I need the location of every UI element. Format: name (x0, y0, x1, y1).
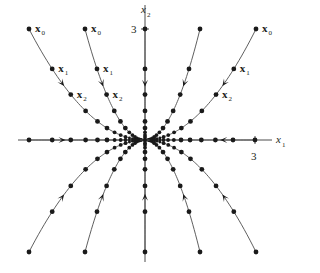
trajectory-upper-right-inner (145, 27, 202, 141)
iterate-label-x1: x (58, 62, 64, 74)
iterate-point (113, 146, 117, 150)
iterate-point (143, 67, 148, 72)
iterate-point (83, 109, 88, 114)
iterate-point (199, 167, 204, 172)
iterate-point (231, 67, 236, 72)
iterate-point (27, 250, 32, 255)
iterate-point (95, 209, 100, 214)
iterate-point (68, 92, 73, 97)
direction-arrow-icon (58, 79, 65, 86)
x2-axis-label: x (140, 3, 146, 15)
x2-tick-label: 3 (131, 23, 137, 35)
trajectory-lower-right-outer (145, 139, 258, 254)
iterate-point (105, 150, 110, 155)
iterate-point (113, 138, 117, 142)
iterate-point (198, 27, 203, 32)
iterate-label-x1: x (240, 62, 246, 74)
iterate-label-x0-subscript: 0 (269, 29, 273, 37)
trajectory-axis-negative-x2 (142, 139, 148, 254)
trajectory-curve (85, 140, 145, 252)
iterate-point (127, 146, 131, 150)
x1-axis-label: x (275, 133, 281, 145)
iterate-point (131, 139, 134, 142)
iterate-point (105, 126, 110, 131)
iterate-point (188, 119, 193, 124)
iterate-label-x0-subscript: 0 (42, 29, 46, 37)
iterate-point (123, 126, 128, 131)
direction-arrow-icon (58, 195, 65, 202)
iterate-point (166, 138, 170, 142)
iterate-point (171, 167, 176, 172)
iterate-point (161, 126, 166, 131)
iterate-point (128, 139, 131, 142)
iterate-point (143, 92, 148, 97)
iterate-point (187, 209, 192, 214)
iterate-point (143, 126, 148, 131)
iterate-point (119, 138, 123, 142)
iterate-point (95, 156, 100, 161)
iterate-point (95, 138, 100, 143)
iterate-point (188, 138, 193, 143)
iterate-point (166, 143, 170, 147)
iterate-point (158, 146, 162, 150)
iterate-point (165, 156, 170, 161)
iterate-label-x2-subscript: 2 (83, 95, 87, 103)
trajectory-lower-left-outer (27, 139, 145, 254)
iterate-point (143, 167, 148, 172)
trajectory-lower-right-inner (145, 139, 202, 254)
x1-axis-subscript: 1 (282, 141, 286, 149)
iterate-point (214, 92, 219, 97)
iterate-point (113, 130, 117, 134)
iterate-point (105, 138, 110, 143)
iterate-point (137, 139, 140, 142)
iterate-point (27, 27, 32, 32)
iterate-point (165, 119, 170, 124)
trajectory-upper-right-outer (145, 27, 258, 141)
iterate-point (231, 138, 236, 143)
trajectory-curve (145, 140, 256, 252)
iterate-point (50, 209, 55, 214)
iterate-point (231, 209, 236, 214)
trajectory-axis-positive-x2 (142, 27, 148, 141)
iterate-label-x1-subscript: 1 (65, 69, 69, 77)
iterate-point (123, 150, 128, 155)
iterate-point (178, 92, 183, 97)
iterate-point (179, 150, 184, 155)
iterate-label-x1: x (103, 62, 109, 74)
iterate-label-x1-subscript: 1 (246, 69, 250, 77)
iterate-point (118, 156, 123, 161)
iterate-point (253, 138, 258, 143)
iterate-point (50, 67, 55, 72)
iterate-point (172, 138, 176, 142)
iterate-point (162, 138, 166, 142)
iterate-point (143, 27, 148, 32)
iterate-point (143, 119, 148, 124)
iterate-label-x0: x (35, 22, 41, 34)
iterate-point (104, 92, 109, 97)
trajectory-axis-negative-x1 (27, 137, 145, 143)
iterate-point (95, 67, 100, 72)
iterate-point (198, 250, 203, 255)
iterate-point (68, 183, 73, 188)
iterate-point (143, 156, 148, 161)
iterate-point (172, 146, 176, 150)
iterate-point (143, 209, 148, 214)
iterate-point (143, 150, 148, 155)
iterate-label-x2: x (222, 88, 228, 100)
x1-tick-label: 3 (251, 150, 257, 162)
iterate-point (83, 138, 88, 143)
iterate-point (118, 119, 123, 124)
iterate-point (178, 183, 183, 188)
trajectory-upper-left-outer (27, 27, 145, 141)
iterate-point (158, 130, 162, 134)
direction-arrow-icon (222, 79, 228, 86)
iterate-point (50, 138, 55, 143)
iterate-point (27, 138, 32, 143)
direction-arrow-icon (222, 194, 228, 201)
iterate-point (150, 139, 153, 142)
trajectory-curve (29, 29, 145, 140)
iterate-label-x2-subscript: 2 (229, 95, 233, 103)
iterate-point (68, 138, 73, 143)
iterate-point (213, 138, 218, 143)
iterate-label-x2: x (77, 88, 83, 100)
